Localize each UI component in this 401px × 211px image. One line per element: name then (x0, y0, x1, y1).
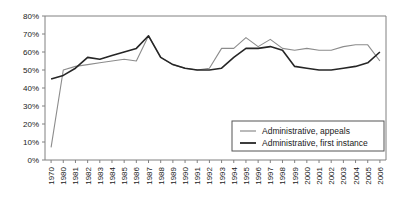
x-axis-tick-label: 1989 (169, 166, 178, 184)
x-axis-tick-label: 2005 (364, 166, 373, 184)
x-axis-tick-label: 1970 (47, 166, 56, 184)
x-axis-tick-label: 1999 (291, 166, 300, 184)
x-axis-tick-label: 1982 (84, 166, 93, 184)
x-axis-tick-label: 1987 (145, 166, 154, 184)
x-axis-tick-label: 1983 (96, 166, 105, 184)
x-axis-tick-label: 1988 (157, 166, 166, 184)
y-axis-tick-label: 80% (23, 12, 39, 21)
y-axis-tick-label: 0% (27, 156, 39, 165)
x-axis-tick-label: 2006 (376, 166, 385, 184)
x-axis-tick-label: 2003 (339, 166, 348, 184)
x-axis-tick-label: 1995 (242, 166, 251, 184)
x-axis-tick-label: 1986 (132, 166, 141, 184)
y-axis-tick-label: 50% (23, 66, 39, 75)
x-axis-tick-label: 1985 (120, 166, 129, 184)
x-axis-tick-label: 1984 (108, 166, 117, 184)
legend-label-2: Administrative, first instance (262, 138, 368, 148)
y-axis-tick-label: 20% (23, 120, 39, 129)
y-axis-tick-label: 30% (23, 102, 39, 111)
x-axis-tick-label: 1998 (278, 166, 287, 184)
x-axis-tick-label: 2002 (327, 166, 336, 184)
x-axis-tick-label: 1993 (218, 166, 227, 184)
x-axis-tick-label: 2001 (315, 166, 324, 184)
line-chart: 0%10%20%30%40%50%60%70%80%19701980198119… (0, 0, 401, 211)
x-axis-tick-label: 2000 (303, 166, 312, 184)
x-axis-tick-label: 1994 (230, 166, 239, 184)
x-axis-tick-label: 1996 (254, 166, 263, 184)
y-axis-tick-label: 40% (23, 84, 39, 93)
legend-label-1: Administrative, appeals (262, 126, 350, 136)
x-axis-tick-label: 1992 (205, 166, 214, 184)
y-axis-tick-label: 10% (23, 138, 39, 147)
x-axis-tick-label: 1980 (59, 166, 68, 184)
x-axis-tick-label: 1990 (181, 166, 190, 184)
y-axis-tick-label: 70% (23, 30, 39, 39)
y-axis-tick-label: 60% (23, 48, 39, 57)
x-axis-tick-label: 1997 (266, 166, 275, 184)
x-axis-tick-label: 2004 (352, 166, 361, 184)
x-axis-tick-label: 1991 (193, 166, 202, 184)
x-axis-tick-label: 1981 (71, 166, 80, 184)
chart-canvas: 0%10%20%30%40%50%60%70%80%19701980198119… (0, 0, 401, 211)
